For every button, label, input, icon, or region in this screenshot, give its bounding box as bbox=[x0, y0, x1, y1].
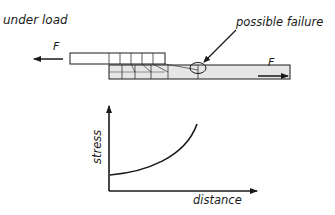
top-plate bbox=[70, 53, 165, 64]
y-axis-label: stress bbox=[90, 130, 104, 164]
stress-curve bbox=[110, 124, 197, 175]
lap-joint-diagram: under load possible failure F F st bbox=[0, 0, 335, 215]
force-right-label: F bbox=[268, 56, 275, 69]
possible-failure-label: possible failure bbox=[235, 15, 323, 29]
under-load-label: under load bbox=[3, 13, 68, 27]
stress-distance-chart: stress distance bbox=[90, 106, 257, 207]
x-axis-label: distance bbox=[193, 193, 242, 207]
failure-pointer-arrow bbox=[204, 30, 236, 62]
force-left-label: F bbox=[53, 40, 60, 53]
